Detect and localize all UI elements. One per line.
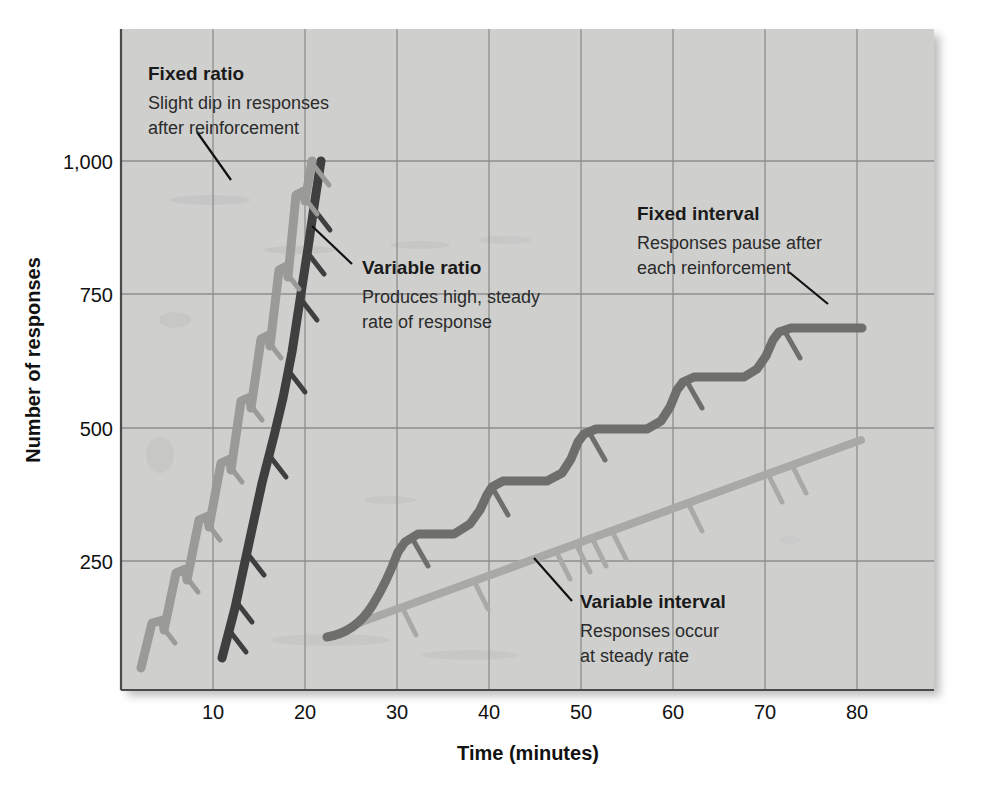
x-tick-label-50: 50 bbox=[570, 701, 592, 723]
y-tick-label-250: 250 bbox=[80, 551, 113, 573]
y-tick-label-1000: 1,000 bbox=[63, 151, 113, 173]
annotation-body-fixed-ratio-line2: after reinforcement bbox=[148, 118, 299, 138]
annotation-body-variable-ratio-line2: rate of response bbox=[362, 312, 492, 332]
annotation-body-fixed-interval-line1: Responses pause after bbox=[637, 233, 822, 253]
figure-container: Fixed ratio Slight dip in responses afte… bbox=[0, 0, 987, 791]
annotation-title-fixed-ratio: Fixed ratio bbox=[148, 63, 244, 84]
x-tick-label-60: 60 bbox=[662, 701, 684, 723]
x-tick-label-10: 10 bbox=[202, 701, 224, 723]
annotation-body-variable-interval-line1: Responses occur bbox=[580, 621, 719, 641]
response-schedules-chart: Fixed ratio Slight dip in responses afte… bbox=[0, 0, 987, 791]
x-tick-label-20: 20 bbox=[294, 701, 316, 723]
x-tick-label-70: 70 bbox=[754, 701, 776, 723]
x-tick-label-80: 80 bbox=[846, 701, 868, 723]
x-axis-title: Time (minutes) bbox=[457, 742, 599, 764]
annotation-title-variable-ratio: Variable ratio bbox=[362, 257, 481, 278]
annotation-body-variable-interval-line2: at steady rate bbox=[580, 646, 689, 666]
annotation-title-fixed-interval: Fixed interval bbox=[637, 203, 760, 224]
annotation-body-fixed-ratio-line1: Slight dip in responses bbox=[148, 93, 329, 113]
y-axis-title: Number of responses bbox=[22, 257, 44, 463]
y-tick-label-500: 500 bbox=[80, 418, 113, 440]
annotation-body-fixed-interval-line2: each reinforcement bbox=[637, 258, 791, 278]
y-tick-label-750: 750 bbox=[80, 284, 113, 306]
annotation-body-variable-ratio-line1: Produces high, steady bbox=[362, 287, 540, 307]
x-tick-label-30: 30 bbox=[386, 701, 408, 723]
annotation-title-variable-interval: Variable interval bbox=[580, 591, 726, 612]
x-tick-label-40: 40 bbox=[478, 701, 500, 723]
